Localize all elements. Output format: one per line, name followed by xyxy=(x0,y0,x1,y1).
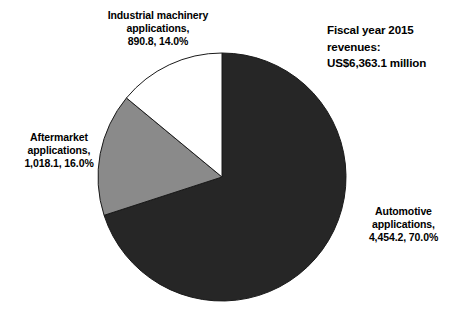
pie-label-aftermarket: Aftermarket applications, 1,018.1, 16.0% xyxy=(10,131,108,171)
pie-label-industrial-machinery: Industrial machinery applications, 890.8… xyxy=(88,9,228,49)
pie-chart-figure: Industrial machinery applications, 890.8… xyxy=(0,0,457,315)
chart-title: Fiscal year 2015 revenues: US$6,363.1 mi… xyxy=(327,22,455,72)
pie-label-automotive: Automotive applications, 4,454.2, 70.0% xyxy=(352,205,455,245)
